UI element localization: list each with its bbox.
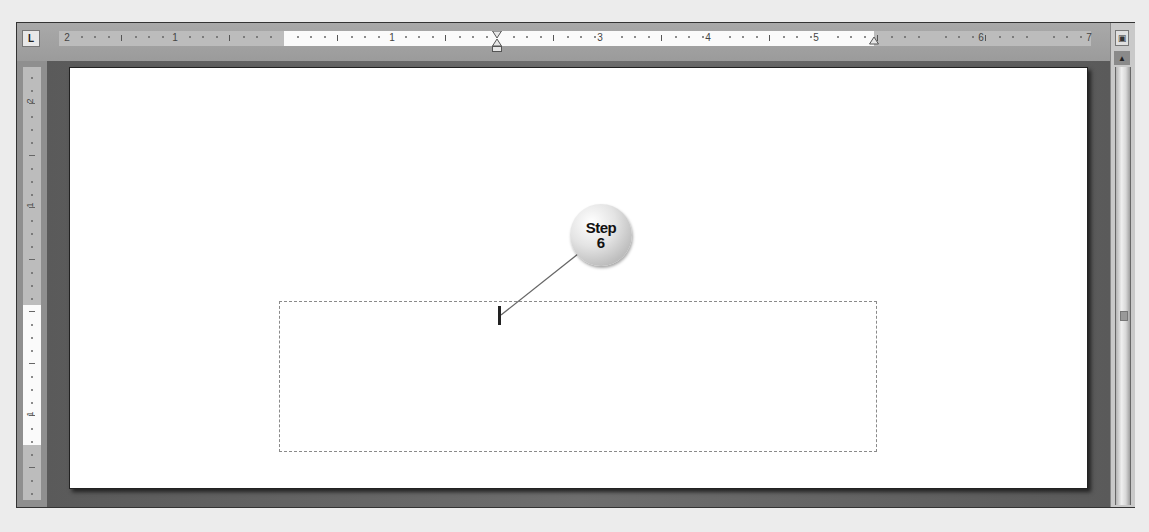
ruler-tick	[29, 363, 35, 364]
ruler-tick	[31, 493, 33, 495]
ruler-tick	[594, 36, 596, 38]
ruler-tick	[31, 428, 33, 430]
ruler-tick	[675, 36, 677, 38]
ruler-tick	[243, 36, 245, 38]
ruler-tick	[742, 36, 744, 38]
ruler-tick	[850, 36, 852, 38]
ruler-tick	[459, 36, 461, 38]
ruler-tick	[756, 36, 758, 38]
ruler-tick	[310, 36, 312, 38]
ruler-text-area	[284, 31, 874, 46]
ruler-label: 3	[597, 32, 603, 43]
view-ruler-button[interactable]: ▣	[1115, 30, 1129, 46]
ruler-text-area-vertical	[23, 305, 41, 445]
ruler-tick	[108, 36, 110, 38]
ruler-tick	[31, 389, 33, 391]
ruler-tick	[31, 480, 33, 482]
ruler-tick	[1066, 36, 1068, 38]
ruler-tick	[148, 36, 150, 38]
ruler-tick	[297, 36, 299, 38]
ruler-tick	[796, 36, 798, 38]
first-line-indent-marker-icon[interactable]	[492, 31, 503, 53]
ruler-label: 4	[705, 32, 711, 43]
ruler-tick	[688, 36, 690, 38]
ruler-tick	[31, 350, 33, 352]
ruler-tick	[486, 36, 488, 38]
ruler-tick	[999, 36, 1001, 38]
ruler-label-vertical: 1	[25, 411, 35, 416]
ruler-tick	[270, 36, 272, 38]
ruler-tick	[1026, 36, 1028, 38]
ruler-tick	[31, 285, 33, 287]
ruler-tick	[918, 36, 920, 38]
step-callout-label: Step	[586, 220, 617, 235]
scroll-up-arrow-icon: ▲	[1118, 54, 1126, 63]
ruler-tick	[216, 36, 218, 38]
ruler-tick	[418, 36, 420, 38]
ruler-tick	[31, 441, 33, 443]
ruler-tick	[29, 467, 35, 468]
ruler-tick	[29, 259, 35, 260]
ruler-label: 2	[64, 32, 70, 43]
ruler-tick	[81, 36, 83, 38]
scroll-grip-icon[interactable]	[1120, 311, 1128, 321]
ruler-tick	[31, 298, 33, 300]
tab-selector-button[interactable]: L	[22, 30, 40, 47]
ruler-label: 5	[813, 32, 819, 43]
document-page[interactable]: Step 6	[69, 67, 1088, 489]
ruler-tick	[567, 36, 569, 38]
ruler-tick	[891, 36, 893, 38]
ruler-tick	[121, 35, 122, 41]
ruler-tick	[1053, 36, 1055, 38]
ruler-tick	[972, 36, 974, 38]
ruler-tick	[31, 194, 33, 196]
ruler-tick	[189, 36, 191, 38]
horizontal-ruler[interactable]: 21134567	[59, 31, 1091, 46]
ruler-tick	[985, 35, 986, 41]
ruler-tick	[864, 36, 866, 38]
ruler-tick	[31, 454, 33, 456]
ruler-tick	[783, 36, 785, 38]
vertical-ruler[interactable]: 211	[23, 67, 41, 500]
scroll-track[interactable]	[1115, 67, 1131, 505]
ruler-tick	[31, 272, 33, 274]
ruler-tick	[337, 35, 338, 41]
ruler-tick	[31, 90, 33, 92]
ruler-label-vertical: 2	[25, 98, 35, 103]
ruler-tick	[31, 77, 33, 79]
ruler-tick	[162, 36, 164, 38]
ruler-tick	[378, 36, 380, 38]
ruler-tick	[540, 36, 542, 38]
ruler-tick	[135, 36, 137, 38]
scroll-up-button[interactable]: ▲	[1114, 51, 1130, 65]
ruler-tick	[31, 233, 33, 235]
ruler-tick	[958, 36, 960, 38]
word-document-window: L 21134567 211 Step	[16, 22, 1135, 508]
ruler-label: 1	[389, 32, 395, 43]
ruler-tick	[29, 155, 35, 156]
left-tab-icon: L	[28, 33, 34, 44]
ruler-tick	[29, 311, 35, 312]
vertical-scrollbar[interactable]: ▣ ▲	[1110, 23, 1135, 507]
ruler-tick	[837, 36, 839, 38]
ruler-tick	[31, 116, 33, 118]
ruler-tick	[256, 36, 258, 38]
text-box[interactable]	[279, 301, 877, 452]
ruler-tick	[904, 36, 906, 38]
ruler-tick	[945, 36, 947, 38]
ruler-tick	[31, 324, 33, 326]
ruler-tick	[351, 36, 353, 38]
ruler-tick	[31, 376, 33, 378]
document-canvas: Step 6	[47, 61, 1110, 507]
ruler-tick	[621, 36, 623, 38]
ruler-label: 6	[978, 32, 984, 43]
ruler-label: 7	[1086, 32, 1092, 43]
ruler-tick	[1012, 36, 1014, 38]
step-callout-number: 6	[597, 235, 605, 250]
ruler-tick	[31, 246, 33, 248]
step-callout-badge: Step 6	[570, 204, 632, 266]
ruler-tick	[472, 36, 474, 38]
ruler-tick	[31, 220, 33, 222]
ruler-tick	[1080, 36, 1082, 38]
ruler-tick	[769, 35, 770, 41]
